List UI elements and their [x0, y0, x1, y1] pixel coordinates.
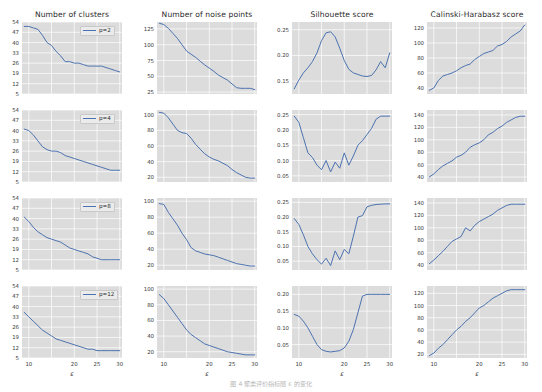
- panel-r3-c4: [427, 198, 527, 270]
- ytick-r1-c4-4: 40: [403, 85, 424, 91]
- xtick-c2-0: 10: [160, 361, 167, 367]
- ytick-r4-c2-1: 80: [133, 302, 154, 308]
- ytick-r2-c2-0: 100: [133, 112, 154, 118]
- series-line: [159, 204, 254, 266]
- series-line: [294, 294, 389, 352]
- panel-r3-c3: [292, 198, 392, 270]
- ytick-r4-c4-3: 60: [403, 327, 424, 333]
- ytick-r4-c1-2: 40: [0, 304, 19, 310]
- xtick-c3-0: 10: [295, 361, 302, 367]
- ytick-r3-c4-0: 140: [403, 200, 424, 206]
- ytick-r4-c1-3: 33: [0, 314, 19, 320]
- ytick-r2-c4-1: 120: [403, 124, 424, 130]
- xtick-c1-2: 20: [71, 361, 78, 367]
- ytick-r4-c4-4: 40: [403, 339, 424, 345]
- ytick-r1-c1-2: 40: [0, 40, 19, 46]
- ytick-r3-c1-1: 47: [0, 205, 19, 211]
- series-line: [24, 129, 119, 170]
- legend-r3: p=8: [80, 202, 115, 212]
- ytick-r2-c2-3: 40: [133, 159, 154, 165]
- xtick-c1-3: 25: [94, 361, 101, 367]
- ytick-r3-c3-0: 0.25: [268, 199, 289, 205]
- ytick-r3-c2-1: 80: [133, 214, 154, 220]
- ytick-r4-c4-1: 100: [403, 303, 424, 309]
- column-title-1: Number of clusters: [35, 10, 109, 19]
- series-line: [429, 204, 524, 264]
- ytick-r1-c1-1: 47: [0, 29, 19, 35]
- ytick-r2-c3-2: 0.15: [268, 142, 289, 148]
- ytick-r4-c2-0: 100: [133, 286, 154, 292]
- ytick-r4-c3-0: 0.20: [268, 291, 289, 297]
- ytick-r3-c1-6: 12: [0, 257, 19, 263]
- series-line: [159, 295, 254, 355]
- column-title-2: Number of noise points: [162, 10, 253, 19]
- plot-area: [157, 22, 257, 94]
- legend-line-swatch: [83, 294, 96, 295]
- ytick-r2-c1-2: 40: [0, 128, 19, 134]
- ytick-r4-c4-2: 80: [403, 315, 424, 321]
- ytick-r4-c1-7: 5: [0, 355, 19, 361]
- ytick-r4-c4-5: 20: [403, 351, 424, 357]
- xtick-c3-2: 20: [341, 361, 348, 367]
- ytick-r1-c2-1: 100: [133, 42, 154, 48]
- ytick-r2-c1-5: 19: [0, 158, 19, 164]
- xtick-c3-4: 30: [386, 361, 393, 367]
- ytick-r1-c1-3: 33: [0, 50, 19, 56]
- legend-label: p=2: [99, 28, 111, 34]
- xaxis-label-c4: ε: [475, 370, 478, 378]
- plot-area: [292, 198, 392, 270]
- ytick-r1-c2-0: 125: [133, 26, 154, 32]
- ytick-r1-c3-1: 0.20: [268, 52, 289, 58]
- ytick-r2-c4-4: 60: [403, 162, 424, 168]
- series-line: [24, 217, 119, 260]
- ytick-r4-c1-4: 26: [0, 324, 19, 330]
- series-line: [294, 116, 389, 172]
- ytick-r2-c4-2: 100: [403, 137, 424, 143]
- xtick-c2-3: 25: [229, 361, 236, 367]
- ytick-r2-c1-3: 33: [0, 138, 19, 144]
- series-line: [294, 32, 389, 89]
- series-line: [429, 116, 524, 177]
- ytick-r3-c1-0: 54: [0, 195, 19, 201]
- ytick-r4-c3-2: 0.10: [268, 325, 289, 331]
- xtick-c4-4: 30: [521, 361, 528, 367]
- ytick-r2-c2-1: 80: [133, 127, 154, 133]
- ytick-r2-c3-3: 0.10: [268, 158, 289, 164]
- ytick-r3-c3-4: 0.05: [268, 258, 289, 264]
- ytick-r4-c1-5: 19: [0, 334, 19, 340]
- panel-r2-c2: [157, 110, 257, 182]
- plot-area: [427, 286, 527, 358]
- panel-r3-c2: [157, 198, 257, 270]
- ytick-r4-c1-6: 12: [0, 345, 19, 351]
- column-title-4: Calinski-Harabasz score: [431, 10, 524, 19]
- series-line: [429, 290, 524, 356]
- ytick-r3-c1-2: 40: [0, 216, 19, 222]
- ytick-r2-c2-4: 20: [133, 174, 154, 180]
- panel-r2-c3: [292, 110, 392, 182]
- plot-area: [427, 198, 527, 270]
- ytick-r1-c1-4: 26: [0, 60, 19, 66]
- legend-label: p=12: [99, 292, 114, 298]
- ytick-r1-c2-4: 25: [133, 89, 154, 95]
- ytick-r2-c3-1: 0.20: [268, 127, 289, 133]
- ytick-r2-c4-5: 40: [403, 174, 424, 180]
- ytick-r4-c2-2: 60: [133, 317, 154, 323]
- ytick-r3-c1-7: 5: [0, 267, 19, 273]
- xaxis-label-c1: ε: [70, 370, 73, 378]
- plot-area: [157, 286, 257, 358]
- ytick-r1-c1-6: 12: [0, 81, 19, 87]
- ytick-r2-c1-0: 54: [0, 107, 19, 113]
- ytick-r1-c4-3: 60: [403, 70, 424, 76]
- series-line: [24, 312, 119, 350]
- ytick-r4-c4-0: 120: [403, 290, 424, 296]
- ytick-r2-c4-3: 80: [403, 149, 424, 155]
- series-line: [429, 25, 524, 90]
- ytick-r1-c1-7: 5: [0, 91, 19, 97]
- ytick-r2-c3-4: 0.05: [268, 173, 289, 179]
- ytick-r4-c1-0: 54: [0, 283, 19, 289]
- panel-r2-c4: [427, 110, 527, 182]
- ytick-r2-c1-4: 26: [0, 148, 19, 154]
- series-line: [294, 204, 389, 266]
- ytick-r1-c3-2: 0.15: [268, 78, 289, 84]
- ytick-r4-c2-4: 20: [133, 349, 154, 355]
